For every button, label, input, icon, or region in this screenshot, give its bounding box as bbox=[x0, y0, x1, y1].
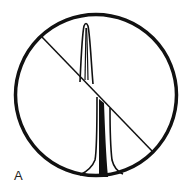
spire-circle-diagram bbox=[0, 0, 192, 190]
diagonal-line bbox=[42, 37, 153, 152]
lower-spire bbox=[80, 97, 123, 177]
figure-label: A bbox=[14, 168, 23, 183]
upper-spire bbox=[80, 24, 93, 85]
